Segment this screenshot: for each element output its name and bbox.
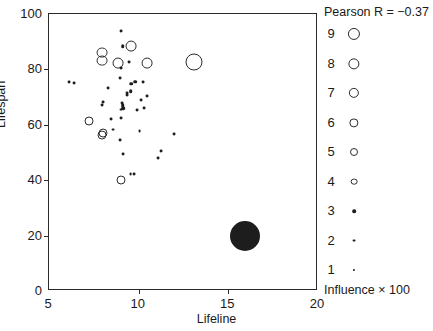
data-point [127,61,130,64]
legend-value-label: 7 [324,86,338,100]
legend-value-label: 1 [324,263,338,277]
data-point [230,221,260,251]
data-point [119,108,122,111]
legend-marker [353,269,355,271]
data-point [126,93,129,96]
y-axis-tick-label: 60 [0,118,42,131]
size-legend: 987654321 [324,13,424,290]
legend-marker [352,209,356,213]
data-point [85,117,94,126]
y-axis-tick [44,69,49,70]
data-point [157,157,160,160]
legend-marker [353,239,356,242]
data-point [109,118,112,121]
data-point [126,41,137,52]
legend-row: 1 [324,263,424,277]
data-point [140,98,143,101]
legend-row: 4 [324,175,424,189]
data-point [96,55,107,66]
legend-row: 3 [324,204,424,218]
data-points-layer [49,14,316,289]
data-point [100,103,103,106]
data-point [119,116,122,119]
y-axis-tick-label: 80 [0,62,42,75]
legend-value-label: 9 [324,27,338,41]
legend-marker [348,28,360,40]
data-point [142,80,145,83]
data-point [186,54,203,71]
data-point [160,150,163,153]
legend-value-label: 4 [324,175,338,189]
data-point [129,172,132,175]
legend-marker [348,58,359,69]
x-axis-tick-label: 20 [297,297,337,310]
data-point [138,130,141,133]
data-point [122,152,125,155]
data-point [97,131,106,140]
y-axis-tick-label: 20 [0,229,42,242]
legend-marker [351,178,358,185]
data-point [111,128,114,131]
x-axis-tick-label: 5 [28,297,68,310]
influence-legend-caption: Influence × 100 [324,283,410,297]
data-point [121,45,125,49]
y-axis-tick [44,236,49,237]
legend-row: 5 [324,145,424,159]
x-axis-tick-label: 10 [118,297,158,310]
y-axis-tick-label: 40 [0,173,42,186]
legend-value-label: 3 [324,204,338,218]
x-axis-tick-label: 15 [207,297,247,310]
data-point [145,95,148,98]
data-point [119,29,122,32]
y-axis-tick-label: 100 [0,7,42,20]
legend-row: 8 [324,57,424,71]
data-point [116,176,125,185]
data-point [141,58,152,69]
data-point [133,172,136,175]
y-axis-tick [44,180,49,181]
data-point [129,89,133,93]
data-point [133,80,137,84]
legend-row: 7 [324,86,424,100]
legend-row: 2 [324,234,424,248]
data-point [118,76,121,79]
legend-marker [349,88,359,98]
data-point [172,132,175,135]
data-point [143,107,146,110]
legend-value-label: 8 [324,57,338,71]
data-point [107,87,110,90]
data-point [67,80,70,83]
data-point [118,139,121,142]
plot-area [48,13,317,290]
x-axis-tick [139,289,140,294]
legend-row: 9 [324,27,424,41]
legend-value-label: 6 [324,116,338,130]
data-point [119,67,122,70]
data-point [73,82,76,85]
scatter-plot-figure: Pearson R = −0.37 Lifespan Lifeline 0204… [0,0,433,331]
legend-marker [350,148,358,156]
x-axis-tick [228,289,229,294]
legend-value-label: 2 [324,234,338,248]
x-axis-title: Lifeline [0,312,433,326]
legend-row: 6 [324,116,424,130]
data-point [135,108,138,111]
data-point [130,82,134,86]
y-axis-tick [44,125,49,126]
legend-value-label: 5 [324,145,338,159]
legend-marker [349,118,358,127]
y-axis-tick-label: 0 [0,284,42,297]
